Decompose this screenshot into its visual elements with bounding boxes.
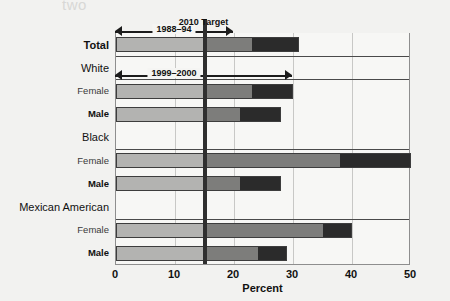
bar-segment-base	[116, 107, 205, 122]
category-label-mexican-american-7: Mexican American	[19, 202, 109, 213]
bar-row	[116, 153, 409, 168]
bar	[116, 223, 352, 238]
bar-segment-1999-2000	[323, 223, 353, 238]
group-rule	[116, 149, 409, 150]
bar	[116, 153, 411, 168]
target-label: 2010 Target	[179, 17, 228, 27]
category-label-white-1: White	[81, 63, 109, 74]
bar-segment-1988-94	[205, 246, 258, 261]
x-tick-30: 30	[286, 268, 298, 280]
bar-segment-base	[116, 84, 205, 99]
arrow-right-icon	[226, 26, 233, 36]
arrow-left-icon	[115, 26, 122, 36]
arrow-right-icon	[285, 70, 292, 80]
bar-segment-1999-2000	[340, 153, 411, 168]
x-axis-title: Percent	[115, 282, 410, 294]
bar-segment-base	[116, 153, 205, 168]
bar-segment-1988-94	[205, 223, 323, 238]
value-axis-ticks: 01020304050	[115, 268, 410, 282]
category-label-total-0: Total	[84, 40, 109, 51]
group-rule	[116, 219, 409, 220]
bar-segment-1999-2000	[252, 84, 293, 99]
bar-row	[116, 84, 409, 99]
category-axis-labels: TotalWhiteFemaleMaleBlackFemaleMaleMexic…	[0, 33, 112, 265]
chart-page: two TotalWhiteFemaleMaleBlackFemaleMaleM…	[0, 0, 450, 301]
category-label-female-8: Female	[77, 225, 109, 235]
bar	[116, 37, 299, 52]
bar-segment-1988-94	[205, 107, 240, 122]
bar	[116, 107, 281, 122]
category-label-female-2: Female	[77, 86, 109, 96]
bar-segment-base	[116, 176, 205, 191]
category-label-black-4: Black	[82, 132, 109, 143]
bar-segment-1988-94	[205, 176, 240, 191]
category-label-male-3: Male	[88, 109, 109, 119]
category-label-male-9: Male	[88, 248, 109, 258]
bar-segment-base	[116, 223, 205, 238]
bar-segment-1988-94	[205, 153, 341, 168]
bar-segment-base	[116, 246, 205, 261]
category-label-female-5: Female	[77, 156, 109, 166]
annotation-label: 1999–2000	[147, 68, 200, 78]
bar-segment-1999-2000	[258, 246, 288, 261]
bar-row	[116, 107, 409, 122]
bar-segment-1988-94	[205, 84, 252, 99]
page-bleed-text: two	[62, 0, 87, 13]
bar-row	[116, 176, 409, 191]
range-annotation-0: 1988–94	[115, 26, 233, 38]
bar-segment-1999-2000	[240, 107, 281, 122]
x-tick-50: 50	[404, 268, 416, 280]
bar-segment-base	[116, 37, 205, 52]
bar-segment-1999-2000	[240, 176, 281, 191]
arrow-left-icon	[115, 70, 122, 80]
bar	[116, 176, 281, 191]
bar-row	[116, 223, 409, 238]
target-line	[203, 19, 207, 264]
x-tick-20: 20	[227, 268, 239, 280]
group-rule	[116, 56, 409, 57]
bar-segment-1988-94	[205, 37, 252, 52]
bar-row	[116, 246, 409, 261]
bar-row	[116, 37, 409, 52]
category-label-male-6: Male	[88, 179, 109, 189]
x-tick-0: 0	[112, 268, 118, 280]
x-tick-10: 10	[168, 268, 180, 280]
bar-segment-1999-2000	[252, 37, 299, 52]
x-tick-40: 40	[345, 268, 357, 280]
